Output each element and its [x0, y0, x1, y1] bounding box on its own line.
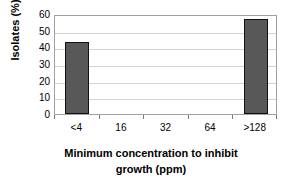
bar-slot	[100, 16, 145, 114]
y-axis-tick-label: 20	[24, 77, 50, 87]
x-axis-tick-label: 64	[205, 121, 216, 134]
x-axis-ticks	[54, 115, 277, 119]
y-axis-tick-label: 30	[24, 60, 50, 70]
x-axis-title-line: growth (ppm)	[20, 161, 282, 177]
bars-layer	[55, 16, 276, 114]
x-axis-tick-label: 32	[160, 121, 171, 134]
x-axis-tick-label: 16	[115, 121, 126, 134]
x-axis-tick	[99, 115, 100, 119]
bar-slot	[233, 16, 277, 114]
bar-slot	[189, 16, 234, 114]
x-axis-tick	[276, 115, 277, 119]
x-axis-title: Minimum concentration to inhibitgrowth (…	[20, 145, 282, 177]
x-axis-tick-label: <4	[71, 121, 82, 134]
y-axis-tick-label: 10	[24, 93, 50, 103]
x-axis-tick-labels: <4163264>128	[54, 121, 277, 134]
bar-chart-figure: Isolates (%) 0102030405060 <4163264>128 …	[0, 0, 300, 188]
x-axis-title-line: Minimum concentration to inhibit	[20, 145, 282, 161]
y-axis-tick-label: 0	[24, 110, 50, 120]
bar-slot	[55, 16, 100, 114]
y-axis-tick-label: 60	[24, 10, 50, 20]
plot-area	[54, 15, 277, 115]
bar	[244, 19, 268, 114]
y-axis-tick-label: 40	[24, 43, 50, 53]
y-axis-tick-labels: 0102030405060	[24, 12, 50, 115]
bar	[65, 42, 89, 114]
x-axis-tick	[143, 115, 144, 119]
y-axis-tick-label: 50	[24, 27, 50, 37]
y-axis-title: Isolates (%)	[9, 0, 21, 76]
bar-slot	[144, 16, 189, 114]
x-axis-tick	[188, 115, 189, 119]
x-axis-tick	[232, 115, 233, 119]
x-axis-tick	[54, 115, 55, 119]
x-axis-tick-label: >128	[243, 121, 266, 134]
